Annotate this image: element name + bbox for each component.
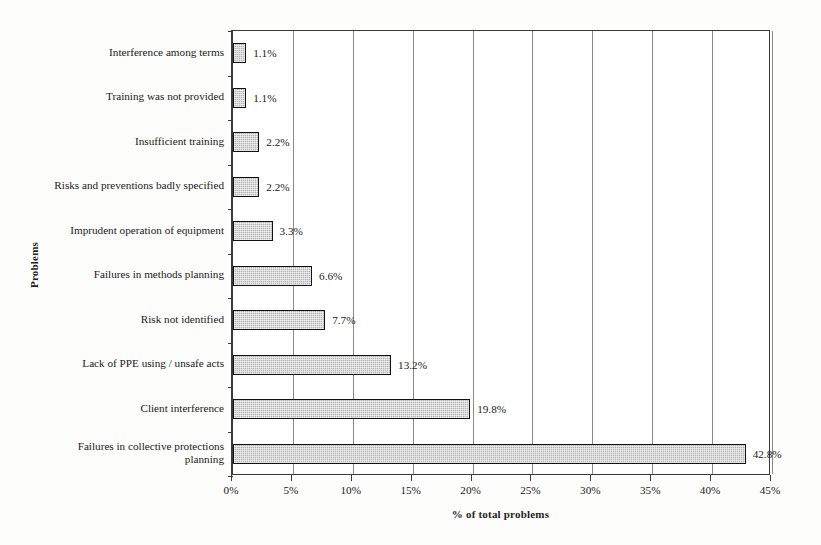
x-axis-tick <box>411 475 412 481</box>
category-label: Interference among terms <box>48 46 224 59</box>
bar <box>233 444 746 464</box>
bar <box>233 310 325 330</box>
bar <box>233 132 259 152</box>
y-axis-tick <box>228 432 233 433</box>
category-label: Imprudent operation of equipment <box>48 224 224 237</box>
y-axis-tick <box>228 387 233 388</box>
x-axis-tick <box>471 475 472 481</box>
bar <box>233 266 312 286</box>
x-axis-tick <box>710 475 711 481</box>
y-axis-tick <box>228 209 233 210</box>
bar-value-label: 6.6% <box>319 270 342 282</box>
bar-value-label: 2.2% <box>266 136 289 148</box>
x-axis-tick-label: 15% <box>389 484 433 496</box>
bar <box>233 221 273 241</box>
category-label: Client interference <box>48 402 224 415</box>
x-axis-tick-label: 30% <box>568 484 612 496</box>
bar-value-label: 2.2% <box>266 181 289 193</box>
bar <box>233 399 470 419</box>
y-axis-tick <box>228 165 233 166</box>
category-label: Insufficient training <box>48 135 224 148</box>
category-label-column: Interference among termsTraining was not… <box>50 30 228 475</box>
bar-value-label: 19.8% <box>477 403 506 415</box>
x-axis-tick-label: 35% <box>628 484 672 496</box>
y-axis-title: Problems <box>28 190 40 340</box>
x-axis-tick-label: 45% <box>748 484 792 496</box>
bar-value-label: 7.7% <box>332 314 355 326</box>
y-axis-tick <box>228 298 233 299</box>
gridline <box>772 31 773 474</box>
bar <box>233 177 259 197</box>
category-label: Risks and preventions badly specified <box>48 179 224 192</box>
bar <box>233 88 246 108</box>
x-axis-tick <box>650 475 651 481</box>
x-axis-tick <box>770 475 771 481</box>
bar-value-label: 42.8% <box>753 448 782 460</box>
bar <box>233 43 246 63</box>
plot-area: 1.1%1.1%2.2%2.2%3.3%6.6%7.7%13.2%19.8%42… <box>231 30 770 475</box>
x-axis-tick <box>530 475 531 481</box>
category-label: Risk not identified <box>48 313 224 326</box>
category-label: Training was not provided <box>48 90 224 103</box>
x-axis-tick-label: 10% <box>329 484 373 496</box>
x-axis-tick-label: 40% <box>688 484 732 496</box>
y-axis-tick <box>228 254 233 255</box>
x-axis-tick-label: 5% <box>269 484 313 496</box>
category-label: Lack of PPE using / unsafe acts <box>48 357 224 370</box>
x-axis-tick <box>351 475 352 481</box>
y-axis-tick <box>228 120 233 121</box>
bar-value-label: 1.1% <box>253 47 276 59</box>
x-axis-tick-label: 0% <box>209 484 253 496</box>
x-axis-title: % of total problems <box>231 508 770 520</box>
bars-layer: 1.1%1.1%2.2%2.2%3.3%6.6%7.7%13.2%19.8%42… <box>233 31 769 474</box>
x-axis-tick-label: 20% <box>449 484 493 496</box>
bar-value-label: 3.3% <box>280 225 303 237</box>
x-axis-tick <box>590 475 591 481</box>
bar-value-label: 1.1% <box>253 92 276 104</box>
x-axis-tick <box>291 475 292 481</box>
y-axis-tick <box>228 76 233 77</box>
y-axis-tick <box>228 31 233 32</box>
y-axis-tick <box>228 343 233 344</box>
x-axis-tick <box>231 475 232 481</box>
bar-value-label: 13.2% <box>398 359 427 371</box>
category-label: Failures in collective protections plann… <box>48 440 224 466</box>
bar-chart: Problems Interference among termsTrainin… <box>0 0 821 545</box>
bar <box>233 355 391 375</box>
category-label: Failures in methods planning <box>48 268 224 281</box>
x-axis-tick-label: 25% <box>508 484 552 496</box>
